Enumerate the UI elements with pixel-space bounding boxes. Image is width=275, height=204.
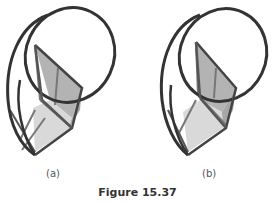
- figure-panel-b: [138, 0, 275, 165]
- panel-label-a: (a): [46, 168, 60, 179]
- shape-drawing-b: [138, 0, 275, 165]
- shape-drawing-a: [0, 0, 137, 165]
- panel-label-b: (b): [202, 168, 216, 179]
- figure-panel-a: [0, 0, 137, 165]
- figure-caption: Figure 15.37: [0, 186, 275, 199]
